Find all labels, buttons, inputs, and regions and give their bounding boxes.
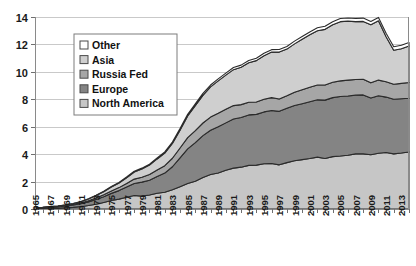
y-tick-label: 12	[16, 39, 28, 51]
chart-legend[interactable]: OtherAsiaRussia FedEuropeNorth America	[74, 34, 177, 115]
x-tick-label: 1985	[183, 194, 194, 216]
x-tick-label: 2013	[396, 195, 407, 216]
y-tick-label: 2	[22, 177, 28, 189]
x-tick-label: 1975	[106, 194, 117, 216]
x-tick-label: 2001	[305, 194, 316, 216]
x-tick-label: 2009	[366, 195, 377, 216]
x-tick-label: 2005	[335, 194, 346, 216]
x-axis-tick-labels: 1965196719691971197319751977197919811983…	[30, 194, 407, 216]
x-tick-label: 1987	[198, 195, 209, 216]
legend-swatch-other[interactable]	[80, 41, 88, 49]
y-tick-label: 6	[22, 122, 28, 134]
x-tick-label: 1979	[137, 195, 148, 216]
y-tick-label: 0	[22, 204, 28, 216]
y-tick-label: 10	[16, 67, 28, 79]
y-tick-label: 4	[22, 149, 29, 161]
legend-swatch-russia-fed[interactable]	[80, 70, 88, 78]
x-tick-label: 1967	[45, 195, 56, 216]
x-tick-label: 1977	[122, 195, 133, 216]
x-tick-label: 1971	[76, 194, 87, 216]
x-tick-label: 1973	[91, 195, 102, 216]
x-tick-label: 2007	[351, 195, 362, 216]
legend-label-europe[interactable]: Europe	[92, 83, 128, 95]
x-tick-label: 1981	[152, 194, 163, 216]
x-tick-label: 1983	[167, 195, 178, 216]
chart-canvas: 02468101214 1965196719691971197319751977…	[0, 0, 416, 266]
x-tick-label: 1989	[213, 195, 224, 216]
x-tick-label: 1991	[228, 194, 239, 216]
legend-swatch-europe[interactable]	[80, 85, 88, 93]
x-tick-label: 1993	[244, 195, 255, 216]
y-tick-label: 14	[16, 12, 29, 24]
x-tick-label: 1995	[259, 194, 270, 216]
x-tick-label: 2011	[381, 195, 392, 216]
x-tick-label: 1969	[61, 195, 72, 216]
x-tick-label: 1997	[274, 195, 285, 216]
legend-label-north-america[interactable]: North America	[92, 97, 164, 109]
y-tick-label: 8	[22, 94, 28, 106]
x-tick-label: 1999	[290, 195, 301, 216]
x-tick-label: 2003	[320, 195, 331, 216]
legend-swatch-north-america[interactable]	[80, 99, 88, 107]
legend-label-russia-fed[interactable]: Russia Fed	[92, 68, 148, 80]
stacked-area-chart: 02468101214 1965196719691971197319751977…	[0, 0, 416, 266]
legend-label-asia[interactable]: Asia	[92, 54, 114, 66]
y-axis-tick-labels: 02468101214	[16, 12, 29, 216]
x-tick-label: 1965	[30, 194, 41, 216]
legend-label-other[interactable]: Other	[92, 39, 120, 51]
legend-swatch-asia[interactable]	[80, 56, 88, 64]
